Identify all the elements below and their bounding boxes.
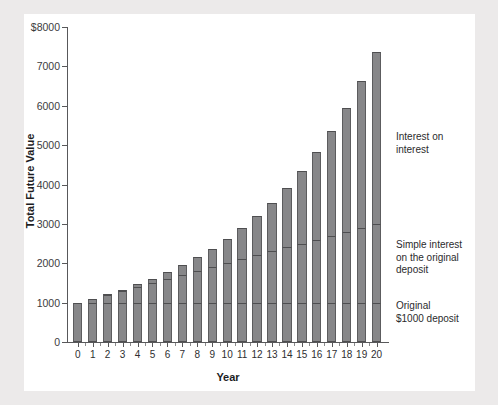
y-axis-tick-label: $8000 xyxy=(12,22,60,32)
legend-item-interest-on-interest: Interest on interest xyxy=(396,131,494,156)
y-axis-tick-label: 0 xyxy=(12,337,60,347)
x-axis-minor-tick xyxy=(145,343,146,346)
x-axis-minor-tick xyxy=(115,343,116,346)
bar-segment-interest-on-interest xyxy=(237,228,246,259)
bar-segment-original-deposit xyxy=(237,303,246,342)
y-axis-tick xyxy=(62,106,67,107)
bar-year-17 xyxy=(327,131,336,342)
bar-segment-simple-interest xyxy=(118,291,127,303)
bar-segment-interest-on-interest xyxy=(282,188,291,248)
legend-label-line1: Original xyxy=(396,300,494,313)
x-axis-title: Year xyxy=(67,371,389,383)
x-axis-minor-tick xyxy=(309,343,310,346)
bar-segment-original-deposit xyxy=(88,303,97,342)
bar-segment-interest-on-interest xyxy=(148,279,157,283)
bar-year-15 xyxy=(297,171,306,342)
x-axis-tick xyxy=(242,343,243,347)
bar-year-7 xyxy=(178,265,187,342)
bar-segment-original-deposit xyxy=(357,303,366,342)
x-axis-minor-tick xyxy=(294,343,295,346)
bar-year-13 xyxy=(267,203,276,342)
bar-segment-simple-interest xyxy=(103,295,112,303)
x-axis-tick xyxy=(93,343,94,347)
bar-segment-original-deposit xyxy=(118,303,127,342)
bar-year-20 xyxy=(372,52,381,342)
x-axis-minor-tick xyxy=(220,343,221,346)
bar-segment-interest-on-interest xyxy=(297,171,306,243)
legend-label-line2: on the original xyxy=(396,252,494,265)
bar-segment-simple-interest xyxy=(282,247,291,302)
x-axis-minor-tick xyxy=(130,343,131,346)
legend-item-original-deposit: Original $1000 deposit xyxy=(396,300,494,325)
bar-segment-original-deposit xyxy=(223,303,232,342)
bar-segment-interest-on-interest xyxy=(223,239,232,263)
x-axis-tick xyxy=(377,343,378,347)
bar-segment-original-deposit xyxy=(133,303,142,342)
bar-year-2 xyxy=(103,294,112,342)
bar-year-6 xyxy=(163,272,172,342)
bar-segment-simple-interest xyxy=(297,244,306,303)
x-axis-minor-tick xyxy=(279,343,280,346)
bar-year-19 xyxy=(357,81,366,342)
x-axis-minor-tick xyxy=(205,343,206,346)
bar-year-12 xyxy=(252,216,261,342)
x-axis-tick xyxy=(108,343,109,347)
bar-year-0 xyxy=(73,303,82,342)
legend-label-line1: Simple interest xyxy=(396,239,494,252)
bar-segment-simple-interest xyxy=(178,275,187,303)
bar-segment-interest-on-interest xyxy=(357,81,366,228)
bar-segment-simple-interest xyxy=(223,263,232,302)
bar-segment-original-deposit xyxy=(297,303,306,342)
x-axis-tick xyxy=(302,343,303,347)
bar-segment-original-deposit xyxy=(282,303,291,342)
bar-segment-interest-on-interest xyxy=(312,152,321,239)
bar-segment-interest-on-interest xyxy=(103,294,112,295)
bar-year-16 xyxy=(312,152,321,342)
x-axis-tick xyxy=(227,343,228,347)
bar-segment-simple-interest xyxy=(208,267,217,302)
bar-segment-simple-interest xyxy=(193,271,202,303)
bar-segment-interest-on-interest xyxy=(327,131,336,235)
bar-segment-original-deposit xyxy=(327,303,336,342)
bar-segment-original-deposit xyxy=(372,303,381,342)
legend-item-simple-interest: Simple interest on the original deposit xyxy=(396,239,494,277)
bar-segment-simple-interest xyxy=(357,228,366,303)
bar-segment-simple-interest xyxy=(267,251,276,302)
bar-segment-simple-interest xyxy=(88,299,97,303)
bar-segment-simple-interest xyxy=(372,224,381,303)
bar-segment-simple-interest xyxy=(342,232,351,303)
x-axis-tick xyxy=(138,343,139,347)
x-axis-tick xyxy=(362,343,363,347)
bar-segment-simple-interest xyxy=(133,287,142,303)
y-axis-tick-label: 2000 xyxy=(12,258,60,268)
bar-year-8 xyxy=(193,257,202,342)
x-axis-tick xyxy=(197,343,198,347)
legend-label-line2: interest xyxy=(396,144,494,157)
x-axis-minor-tick xyxy=(160,343,161,346)
y-axis-tick xyxy=(62,303,67,304)
bar-segment-simple-interest xyxy=(327,236,336,303)
y-axis-tick xyxy=(62,263,67,264)
bar-segment-interest-on-interest xyxy=(118,290,127,291)
x-axis-minor-tick xyxy=(265,343,266,346)
y-axis-tick xyxy=(62,224,67,225)
x-axis-tick xyxy=(182,343,183,347)
chart-plot-area: 01000200030004000500060007000$8000 01234… xyxy=(0,0,498,405)
bar-year-5 xyxy=(148,279,157,342)
x-axis-minor-tick xyxy=(369,343,370,346)
x-axis-tick xyxy=(347,343,348,347)
bar-segment-original-deposit xyxy=(267,303,276,342)
bar-segment-original-deposit xyxy=(193,303,202,342)
bar-year-11 xyxy=(237,228,246,342)
bar-year-14 xyxy=(282,188,291,342)
x-axis-tick xyxy=(212,343,213,347)
x-axis-tick-label: 20 xyxy=(367,349,387,361)
bar-segment-interest-on-interest xyxy=(252,216,261,255)
bar-segment-interest-on-interest xyxy=(193,257,202,271)
x-axis-tick xyxy=(317,343,318,347)
x-axis-minor-tick xyxy=(175,343,176,346)
bar-segment-simple-interest xyxy=(163,279,172,303)
x-axis-minor-tick xyxy=(235,343,236,346)
bar-segment-original-deposit xyxy=(103,303,112,342)
bar-segment-original-deposit xyxy=(163,303,172,342)
